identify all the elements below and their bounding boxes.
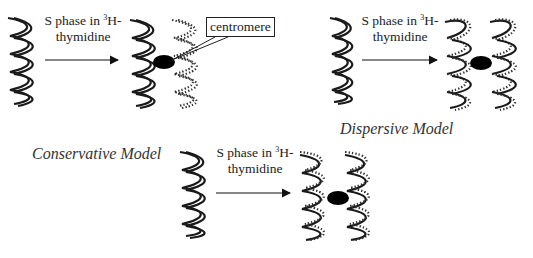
dispersive-parental-helix (330, 18, 352, 104)
step-text-suffix: H- (424, 13, 438, 28)
semiconservative-daughter-helix-left (300, 152, 324, 240)
conservative-daughter-dotted-helix (172, 20, 197, 108)
step-text-suffix: H- (279, 145, 293, 160)
step-text-line2: thymidine (228, 161, 283, 176)
step-text-prefix: S phase in (44, 13, 103, 28)
step-text-prefix: S phase in (216, 145, 275, 160)
centromere-callout-pointer (172, 37, 228, 60)
conservative-parental-helix (8, 18, 33, 106)
dispersive-daughter-helix-left (445, 19, 471, 110)
conservative-centromere (153, 55, 175, 69)
callout-label: centromere (210, 19, 271, 34)
step-text-line2: thymidine (56, 29, 111, 44)
conservative-step-text: S phase in 3H- thymidine (42, 13, 124, 45)
semiconservative-parental-helix (180, 152, 205, 238)
dispersive-daughter-helix-right (490, 19, 516, 110)
step-text-line2: thymidine (373, 29, 428, 44)
conservative-model-label: Conservative Model (32, 145, 161, 163)
step-text-prefix: S phase in (361, 13, 420, 28)
dispersive-centromere (470, 56, 492, 70)
step-text-suffix: H- (107, 13, 121, 28)
conservative-daughter-solid-helix (130, 20, 155, 108)
semiconservative-step-text: S phase in 3H- thymidine (213, 145, 297, 177)
semiconservative-daughter-helix-right (345, 152, 369, 240)
centromere-callout: centromere (206, 17, 275, 37)
semiconservative-centromere (327, 191, 349, 205)
dispersive-step-text: S phase in 3H- thymidine (358, 13, 442, 45)
dispersive-model-label: Dispersive Model (340, 120, 453, 138)
